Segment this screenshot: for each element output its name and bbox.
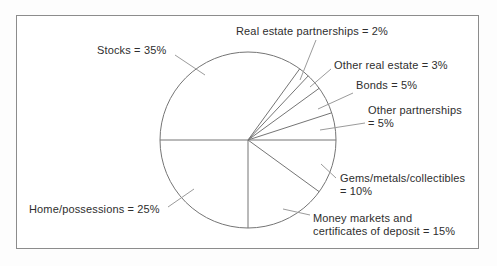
pie-label-home-possessions: Home/possessions = 25% [29,203,160,216]
pie-label-other-real-estate: Other real estate = 3% [334,59,448,72]
pie-label-gems-metals-collectibles: Gems/metals/collectibles = 10% [340,172,465,198]
pie-label-stocks: Stocks = 35% [97,44,166,57]
pie-label-real-estate-partnerships: Real estate partnerships = 2% [236,25,388,38]
pie-label-other-partnerships: Other partnerships = 5% [368,104,462,130]
pie-label-money-markets-cds: Money markets and certificates of deposi… [313,212,455,238]
pie-label-bonds: Bonds = 5% [356,79,417,92]
